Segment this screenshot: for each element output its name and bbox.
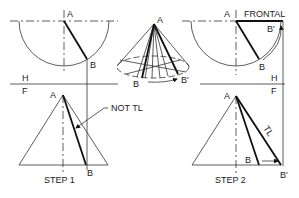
label-F: F [271, 86, 277, 96]
label-B-top: B [90, 60, 96, 70]
line-AB-top [64, 21, 87, 59]
label-H: H [271, 73, 278, 83]
line-AB-front [63, 95, 86, 165]
label-A-front: A [50, 90, 56, 100]
callout-leader [76, 108, 108, 128]
label-frontal: FRONTAL [244, 9, 285, 19]
label-A-top: A [67, 9, 73, 19]
label-B-front: B [245, 155, 251, 165]
label-B-front: B [87, 168, 93, 178]
step2-top-view: A FRONTAL B' B [182, 9, 285, 166]
step2-fold-line: H F [200, 73, 285, 96]
pictorial-cone: A B B' [117, 15, 189, 89]
revolution-diagram: A B H F A B NOT TL STEP 1 A B B' [0, 0, 299, 198]
step1-front-view: A B NOT TL STEP 1 [19, 90, 143, 185]
line-AB-top [236, 21, 259, 59]
step2-front-view: A TL B B' STEP 2 [192, 91, 288, 185]
label-F: F [22, 86, 28, 96]
label-B-prime-front: B' [280, 170, 288, 180]
label-A-pictorial: A [157, 15, 163, 25]
label-B-prime-top: B' [267, 24, 275, 34]
label-B-top: B [259, 62, 265, 72]
callout-not-tl: NOT TL [111, 103, 143, 113]
label-B-prime-pictorial: B' [181, 75, 189, 85]
base-chord [126, 60, 180, 74]
label-H: H [22, 73, 29, 83]
step1-fold-line: H F [10, 73, 118, 96]
label-A-top: A [224, 9, 230, 19]
caption-step2: STEP 2 [215, 175, 246, 185]
rotation-arrow [148, 79, 177, 82]
caption-step1: STEP 1 [44, 175, 75, 185]
label-true-length: TL [261, 124, 275, 138]
label-B-pictorial: B [133, 79, 139, 89]
label-A-front: A [224, 91, 230, 101]
cone-front-view [19, 95, 108, 165]
